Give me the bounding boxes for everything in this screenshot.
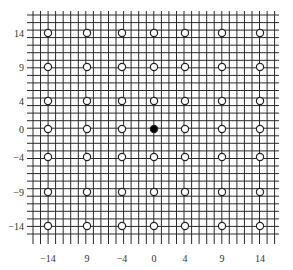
lattice-point — [44, 222, 51, 229]
lattice-point — [256, 125, 263, 132]
lattice-point — [150, 97, 157, 104]
lattice-point — [150, 222, 157, 229]
lattice-point — [118, 29, 125, 36]
lattice-point — [150, 63, 157, 70]
lattice-point — [83, 29, 90, 36]
lattice-point — [44, 188, 51, 195]
lattice-point — [181, 188, 188, 195]
lattice-point — [181, 222, 188, 229]
lattice-chart: −149−404914 14940−4−9−14 — [0, 0, 293, 270]
lattice-point — [256, 188, 263, 195]
origin-point — [150, 125, 157, 132]
lattice-point — [83, 153, 90, 160]
lattice-point — [181, 29, 188, 36]
lattice-point — [83, 222, 90, 229]
x-axis-tick-labels: −149−404914 — [40, 253, 265, 264]
lattice-point — [218, 29, 225, 36]
lattice-point — [150, 188, 157, 195]
lattice-point — [83, 125, 90, 132]
lattice-point — [118, 188, 125, 195]
x-tick-label: −4 — [117, 253, 128, 264]
y-tick-label: 14 — [14, 28, 24, 39]
lattice-point — [218, 125, 225, 132]
lattice-point — [83, 188, 90, 195]
lattice-point — [44, 97, 51, 104]
lattice-point — [256, 63, 263, 70]
lattice-point — [218, 153, 225, 160]
y-tick-label: 0 — [19, 124, 24, 135]
x-tick-label: 9 — [220, 253, 225, 264]
lattice-point — [44, 125, 51, 132]
y-axis-tick-labels: 14940−4−9−14 — [8, 28, 24, 232]
y-tick-label: −9 — [13, 187, 24, 198]
lattice-point — [118, 125, 125, 132]
lattice-point — [118, 153, 125, 160]
x-tick-label: 4 — [183, 253, 188, 264]
x-tick-label: 0 — [152, 253, 157, 264]
lattice-point — [218, 188, 225, 195]
lattice-point — [181, 153, 188, 160]
y-tick-label: −4 — [13, 152, 24, 163]
lattice-point — [218, 97, 225, 104]
lattice-point — [181, 125, 188, 132]
lattice-point — [44, 29, 51, 36]
lattice-point — [150, 29, 157, 36]
lattice-point — [256, 222, 263, 229]
lattice-point — [118, 63, 125, 70]
lattice-point — [256, 153, 263, 160]
lattice-point — [181, 97, 188, 104]
lattice-point — [118, 97, 125, 104]
lattice-point — [181, 63, 188, 70]
lattice-point — [44, 153, 51, 160]
y-tick-label: 9 — [19, 62, 24, 73]
lattice-point — [256, 29, 263, 36]
lattice-point — [256, 97, 263, 104]
lattice-point — [83, 97, 90, 104]
lattice-point — [150, 153, 157, 160]
x-tick-label: 9 — [85, 253, 90, 264]
lattice-point — [218, 222, 225, 229]
lattice-point — [118, 222, 125, 229]
y-tick-label: 4 — [19, 96, 24, 107]
y-tick-label: −14 — [8, 221, 24, 232]
lattice-point — [218, 63, 225, 70]
x-tick-label: −14 — [40, 253, 56, 264]
lattice-point — [83, 63, 90, 70]
lattice-point — [44, 63, 51, 70]
x-tick-label: 14 — [255, 253, 265, 264]
